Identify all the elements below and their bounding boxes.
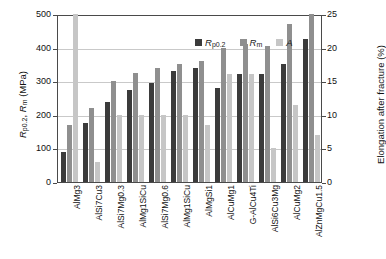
- bar-group: [127, 16, 144, 182]
- chart-legend: Rp0.2 Rm A: [195, 37, 293, 48]
- bar-a: [117, 115, 122, 182]
- bar-group: [149, 16, 166, 182]
- x-axis-label: AlCuMg1: [226, 185, 236, 257]
- legend-item-rp02: Rp0.2: [195, 37, 226, 48]
- plot-area: Rp0.2 Rm A: [57, 15, 322, 183]
- legend-swatch-a: [276, 39, 283, 46]
- bar-a: [161, 115, 166, 182]
- bar-rm: [133, 73, 138, 182]
- bar-a: [271, 148, 276, 182]
- bar-group: [303, 16, 320, 182]
- bar-a: [183, 115, 188, 182]
- bar-rp0-2: [281, 64, 286, 182]
- x-axis-label: AlMgSi1: [204, 185, 214, 257]
- bar-group: [171, 16, 188, 182]
- right-tick-label: 0: [327, 178, 357, 187]
- left-tick-mark: [53, 116, 57, 117]
- right-tick-label: 10: [327, 111, 357, 120]
- bar-rm: [221, 48, 226, 182]
- bar-rm: [89, 108, 94, 182]
- left-tick-label: 0: [21, 178, 51, 187]
- bar-rm: [177, 64, 182, 182]
- bar-a: [293, 105, 298, 182]
- legend-label-rp02: Rp0.2: [205, 37, 226, 48]
- bar-a: [95, 162, 100, 182]
- bar-rp0-2: [127, 90, 132, 182]
- x-axis-label: AlMg1SiCu: [182, 185, 192, 257]
- left-tick-label: 200: [21, 111, 51, 120]
- x-axis-label: AlMg1SiCu: [138, 185, 148, 257]
- bar-a: [139, 115, 144, 182]
- left-tick-mark: [53, 15, 57, 16]
- left-tick-label: 100: [21, 144, 51, 153]
- legend-label-a: A: [286, 37, 292, 48]
- right-tick-label: 20: [327, 44, 357, 53]
- x-axis-label: AlSi6Cu3Mg: [270, 185, 280, 257]
- bar-rp0-2: [303, 39, 308, 182]
- left-tick-label: 500: [21, 10, 51, 19]
- bar-group: [61, 16, 78, 182]
- left-tick-mark: [53, 183, 57, 184]
- bar-a: [227, 74, 232, 182]
- bar-rm: [309, 14, 314, 182]
- right-tick-label: 25: [327, 10, 357, 19]
- bar-rm: [67, 125, 72, 182]
- left-tick-mark: [53, 49, 57, 50]
- right-tick-label: 15: [327, 77, 357, 86]
- legend-swatch-rp02: [195, 39, 202, 46]
- bar-rp0-2: [259, 74, 264, 182]
- x-axis-label: AlSi7Cu3: [94, 185, 104, 257]
- right-axis-title: Elongation after fracture (%): [375, 25, 386, 185]
- bar-rm: [155, 68, 160, 182]
- right-tick-mark: [322, 82, 326, 83]
- bar-rm: [199, 61, 204, 182]
- legend-label-rm: Rm: [250, 37, 263, 48]
- x-axis-label: AlSi7Mg0.3: [116, 185, 126, 257]
- bar-rp0-2: [105, 102, 110, 182]
- left-tick-label: 300: [21, 77, 51, 86]
- bar-a: [315, 135, 320, 182]
- x-axis-label: G-AlCu4Ti: [248, 185, 258, 257]
- bar-rp0-2: [237, 74, 242, 182]
- legend-swatch-rm: [240, 39, 247, 46]
- right-tick-mark: [322, 149, 326, 150]
- bar-rp0-2: [61, 152, 66, 182]
- legend-item-rm: Rm: [240, 37, 263, 48]
- right-tick-mark: [322, 15, 326, 16]
- bar-rp0-2: [171, 71, 176, 182]
- bar-rp0-2: [83, 123, 88, 182]
- right-tick-mark: [322, 116, 326, 117]
- bar-rm: [111, 81, 116, 182]
- x-axis-label: AlMg3: [72, 185, 82, 257]
- bar-a: [73, 14, 78, 182]
- x-axis-label: AlSi7Mg0.6: [160, 185, 170, 257]
- right-tick-label: 5: [327, 144, 357, 153]
- right-tick-mark: [322, 49, 326, 50]
- bar-group: [83, 16, 100, 182]
- bar-a: [249, 74, 254, 182]
- bar-rm: [265, 46, 270, 182]
- x-axis-label: AlCuMg2: [292, 185, 302, 257]
- bar-rp0-2: [215, 88, 220, 182]
- legend-item-a: A: [276, 37, 292, 48]
- left-tick-label: 400: [21, 44, 51, 53]
- bar-rm: [243, 44, 248, 182]
- bar-rp0-2: [149, 83, 154, 182]
- bar-group: [105, 16, 122, 182]
- bar-rp0-2: [193, 68, 198, 182]
- x-axis-label: AlZnMgCu1.5: [314, 185, 324, 257]
- bar-a: [205, 125, 210, 182]
- left-tick-mark: [53, 82, 57, 83]
- x-axis-labels: AlMg3AlSi7Cu3AlSi7Mg0.3AlMg1SiCuAlSi7Mg0…: [57, 185, 322, 259]
- left-tick-mark: [53, 149, 57, 150]
- right-tick-mark: [322, 183, 326, 184]
